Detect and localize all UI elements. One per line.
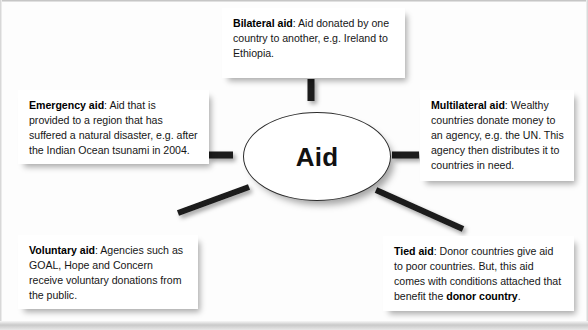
page-bottom-edge bbox=[0, 321, 588, 330]
node-bilateral-term: Bilateral aid bbox=[233, 17, 293, 29]
node-emergency-term: Emergency aid bbox=[29, 99, 104, 111]
node-emergency-aid: Emergency aid: Aid that is provided to a… bbox=[18, 90, 209, 164]
node-tied-term: Tied aid bbox=[394, 245, 434, 257]
node-bilateral-aid: Bilateral aid: Aid donated by one countr… bbox=[222, 8, 405, 78]
node-voluntary-aid: Voluntary aid: Agencies such as GOAL, Ho… bbox=[18, 235, 198, 309]
node-tied-definition-part2: . bbox=[518, 290, 521, 302]
node-voluntary-term: Voluntary aid bbox=[29, 244, 95, 256]
page-top-edge bbox=[0, 0, 588, 2]
node-voluntary-text: Voluntary aid: Agencies such as GOAL, Ho… bbox=[29, 243, 188, 303]
hub-label: Aid bbox=[296, 144, 338, 170]
node-multilateral-aid: Multilateral aid: Wealthy countries dona… bbox=[420, 90, 574, 181]
node-multilateral-term: Multilateral aid bbox=[431, 99, 505, 111]
page-left-edge bbox=[0, 0, 2, 330]
node-bilateral-text: Bilateral aid: Aid donated by one countr… bbox=[233, 16, 395, 61]
diagram-canvas: Aid Bilateral aid: Aid donated by one co… bbox=[0, 0, 588, 330]
hub-node-aid: Aid bbox=[243, 112, 391, 201]
node-tied-text: Tied aid: Donor countries give aid to po… bbox=[394, 244, 564, 304]
node-emergency-text: Emergency aid: Aid that is provided to a… bbox=[29, 98, 199, 158]
connector-tied bbox=[376, 190, 463, 229]
connector-voluntary bbox=[178, 187, 249, 213]
node-tied-aid: Tied aid: Donor countries give aid to po… bbox=[383, 236, 574, 311]
node-tied-emphasis: donor country bbox=[446, 290, 518, 302]
node-multilateral-text: Multilateral aid: Wealthy countries dona… bbox=[431, 98, 564, 173]
